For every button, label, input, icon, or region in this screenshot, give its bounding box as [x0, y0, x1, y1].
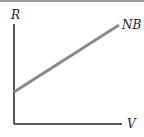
- series-label: NB: [122, 19, 141, 31]
- x-axis-label: V: [127, 118, 136, 130]
- chart: R NB V: [0, 0, 144, 137]
- y-axis-label: R: [11, 9, 20, 21]
- nb-line: [14, 25, 119, 92]
